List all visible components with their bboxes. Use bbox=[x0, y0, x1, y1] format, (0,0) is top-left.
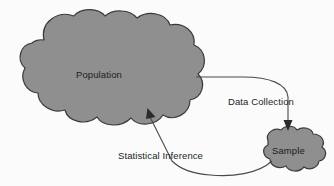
statistical-inference-connector bbox=[150, 117, 272, 176]
statistical-inference-label: Statistical Inference bbox=[118, 150, 203, 161]
population-cloud-shape[interactable] bbox=[20, 10, 204, 125]
population-label: Population bbox=[76, 69, 122, 80]
data-collection-label: Data Collection bbox=[228, 96, 294, 107]
diagram-canvas: Population Sample Data Collection Statis… bbox=[0, 0, 334, 186]
sample-label: Sample bbox=[272, 145, 305, 156]
